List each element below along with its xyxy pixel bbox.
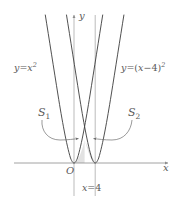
figure-canvas [0,0,186,204]
region-s2-base: S [128,106,136,119]
x-axis-label: x [163,163,169,173]
region-label-s1: S1 [38,107,50,121]
curve-left-exponent: 2 [33,61,37,69]
region-s1-subscript: 1 [46,112,51,121]
curve-label-left: y=x2 [14,62,37,73]
vertical-line-value: 4 [95,182,101,193]
origin-label: O [66,166,74,176]
vertical-line-label: x=4 [82,183,101,193]
curve-right-exponent: 2 [161,61,165,69]
region-s2-subscript: 2 [136,112,141,121]
y-axis-label: y [79,11,85,21]
region-s1-base: S [38,106,46,119]
leader-arrow-s2 [94,120,133,140]
math-figure: y=x2 y=(x−4)2 S1 S2 O x=4 x y [0,0,186,204]
curve-label-right: y=(x−4)2 [121,62,165,73]
region-label-s2: S2 [128,107,140,121]
leader-arrow-s1 [42,120,79,140]
